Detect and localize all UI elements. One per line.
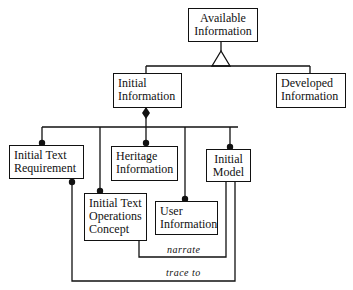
node-initial-text-operations-concept: Initial Text Operations Concept (84, 193, 147, 241)
node-initial-text-requirement: Initial Text Requirement (9, 145, 84, 179)
node-available-information: Available Information (188, 8, 258, 42)
generalization-triangle-icon (212, 51, 230, 66)
node-developed-information: Developed Information (276, 73, 346, 108)
edge-label-trace-to: trace to (166, 267, 201, 278)
association-end-dot-icon (69, 179, 75, 185)
aggregation-diamond-icon (142, 107, 150, 119)
node-initial-information: Initial Information (113, 73, 182, 108)
node-initial-model: Initial Model (206, 149, 251, 182)
node-user-information: User Information (155, 201, 218, 235)
node-heritage-information: Heritage Information (111, 146, 178, 181)
edge-label-narrate: narrate (167, 244, 201, 255)
